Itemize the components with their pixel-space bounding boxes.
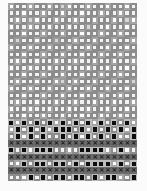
empty-checkbox[interactable] — [130, 51, 136, 58]
empty-checkbox[interactable] — [130, 10, 136, 17]
empty-checkbox[interactable] — [130, 37, 136, 44]
filled-checkbox[interactable] — [130, 126, 136, 133]
empty-checkbox[interactable] — [130, 92, 136, 99]
empty-checkbox[interactable] — [130, 58, 136, 65]
checkbox-grid — [8, 3, 137, 181]
empty-checkbox[interactable] — [130, 24, 136, 31]
empty-checkbox[interactable] — [130, 3, 136, 10]
crossed-checkbox[interactable] — [130, 167, 136, 174]
empty-checkbox[interactable] — [130, 44, 136, 51]
scanned-form-page — [0, 0, 147, 191]
empty-checkbox[interactable] — [130, 85, 136, 92]
crossed-checkbox[interactable] — [130, 154, 136, 161]
empty-checkbox[interactable] — [130, 113, 136, 120]
empty-checkbox[interactable] — [130, 106, 136, 113]
empty-checkbox[interactable] — [130, 30, 136, 37]
smudged-checkbox[interactable] — [130, 78, 136, 85]
crossed-checkbox[interactable] — [130, 140, 136, 147]
empty-checkbox[interactable] — [130, 17, 136, 24]
empty-checkbox[interactable] — [130, 65, 136, 72]
filled-checkbox[interactable] — [130, 174, 136, 181]
empty-checkbox[interactable] — [130, 71, 136, 78]
empty-checkbox[interactable] — [130, 119, 136, 126]
empty-checkbox[interactable] — [130, 99, 136, 106]
